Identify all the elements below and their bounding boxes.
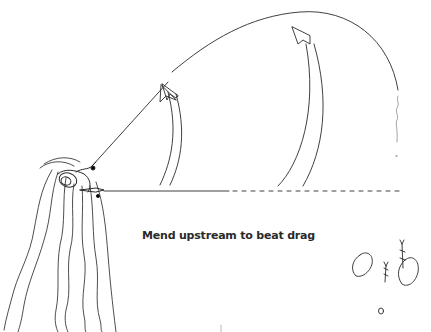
mend-arrow-right	[278, 27, 323, 186]
small-ring	[379, 308, 384, 314]
fish-right	[400, 240, 405, 268]
fly-line-cast-arc-upper	[172, 12, 398, 90]
fish-left	[384, 262, 388, 282]
ring-right	[398, 258, 418, 286]
mend-diagram	[0, 0, 431, 332]
mend-arrow-left	[160, 84, 182, 185]
water-current-lines	[4, 158, 116, 332]
rising-fish-rings	[353, 240, 419, 314]
ring-left	[353, 253, 373, 277]
fly-line-cast-arc	[92, 82, 168, 166]
diagram-caption: Mend upstream to beat drag	[142, 229, 315, 242]
fly-line-end-wiggle	[396, 96, 398, 142]
